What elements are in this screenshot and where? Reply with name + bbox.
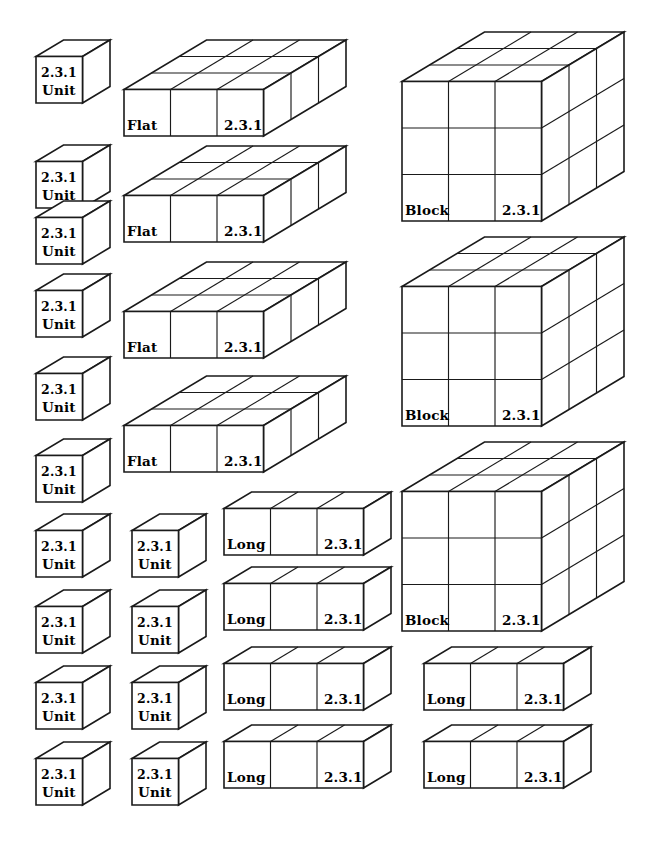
block-name-label: Long	[227, 771, 266, 785]
block-unit: Unit2.3.1	[34, 199, 112, 266]
block-code-label: 2.3.1	[41, 693, 77, 706]
block-code-label: 2.3.1	[41, 228, 77, 241]
block-name-label: Long	[227, 613, 266, 627]
block-flat: Flat2.3.1	[122, 38, 348, 138]
block-name-label: Block	[405, 409, 449, 423]
block-code-label: 2.3.1	[41, 172, 77, 185]
block-code-label: 2.3.1	[224, 225, 263, 239]
block-name-label: Block	[405, 614, 449, 628]
block-name-label: Unit	[42, 558, 76, 572]
block-unit: Unit2.3.1	[34, 512, 112, 579]
block-unit: Unit2.3.1	[34, 588, 112, 655]
block-code-label: 2.3.1	[224, 341, 263, 355]
block-name-label: Unit	[42, 245, 76, 259]
block-code-label: 2.3.1	[41, 466, 77, 479]
block-code-label: 2.3.1	[524, 771, 563, 785]
block-code-label: 2.3.1	[41, 67, 77, 80]
block-long: Long2.3.1	[222, 565, 393, 632]
block-block: Block2.3.1	[400, 235, 626, 428]
block-code-label: 2.3.1	[137, 693, 173, 706]
block-name-label: Unit	[42, 710, 76, 724]
block-name-label: Flat	[127, 341, 158, 355]
block-code-label: 2.3.1	[502, 409, 541, 423]
block-code-label: 2.3.1	[324, 693, 363, 707]
block-name-label: Unit	[138, 786, 172, 800]
block-long: Long2.3.1	[222, 723, 393, 790]
block-unit: Unit2.3.1	[130, 664, 208, 731]
block-unit: Unit2.3.1	[130, 512, 208, 579]
block-long: Long2.3.1	[222, 645, 393, 712]
block-name-label: Long	[227, 538, 266, 552]
block-name-label: Unit	[42, 483, 76, 497]
block-code-label: 2.3.1	[137, 541, 173, 554]
block-code-label: 2.3.1	[524, 693, 563, 707]
block-code-label: 2.3.1	[224, 119, 263, 133]
block-code-label: 2.3.1	[41, 617, 77, 630]
block-code-label: 2.3.1	[324, 538, 363, 552]
block-long: Long2.3.1	[422, 645, 593, 712]
block-code-label: 2.3.1	[137, 617, 173, 630]
diagram-canvas: Unit2.3.1Unit2.3.1Unit2.3.1Unit2.3.1Unit…	[0, 0, 663, 845]
block-block: Block2.3.1	[400, 30, 626, 223]
block-code-label: 2.3.1	[137, 769, 173, 782]
block-code-label: 2.3.1	[324, 771, 363, 785]
block-code-label: 2.3.1	[41, 301, 77, 314]
block-name-label: Long	[427, 771, 466, 785]
block-name-label: Unit	[42, 634, 76, 648]
block-code-label: 2.3.1	[41, 384, 77, 397]
block-name-label: Unit	[42, 401, 76, 415]
block-long: Long2.3.1	[222, 490, 393, 557]
block-unit: Unit2.3.1	[34, 38, 112, 105]
block-name-label: Unit	[42, 84, 76, 98]
block-code-label: 2.3.1	[324, 613, 363, 627]
block-flat: Flat2.3.1	[122, 260, 348, 360]
block-unit: Unit2.3.1	[130, 588, 208, 655]
block-unit: Unit2.3.1	[34, 437, 112, 504]
block-name-label: Block	[405, 204, 449, 218]
block-code-label: 2.3.1	[502, 204, 541, 218]
block-code-label: 2.3.1	[502, 614, 541, 628]
block-code-label: 2.3.1	[41, 769, 77, 782]
block-code-label: 2.3.1	[41, 541, 77, 554]
block-flat: Flat2.3.1	[122, 144, 348, 244]
block-name-label: Unit	[138, 710, 172, 724]
block-name-label: Flat	[127, 225, 158, 239]
block-name-label: Flat	[127, 119, 158, 133]
block-unit: Unit2.3.1	[34, 740, 112, 807]
block-name-label: Unit	[42, 318, 76, 332]
block-long: Long2.3.1	[422, 723, 593, 790]
block-unit: Unit2.3.1	[130, 740, 208, 807]
block-code-label: 2.3.1	[224, 455, 263, 469]
block-unit: Unit2.3.1	[34, 355, 112, 422]
block-name-label: Unit	[42, 786, 76, 800]
block-unit: Unit2.3.1	[34, 664, 112, 731]
block-block: Block2.3.1	[400, 440, 626, 633]
block-name-label: Unit	[138, 634, 172, 648]
block-flat: Flat2.3.1	[122, 374, 348, 474]
block-name-label: Unit	[138, 558, 172, 572]
block-name-label: Long	[427, 693, 466, 707]
block-name-label: Flat	[127, 455, 158, 469]
block-name-label: Long	[227, 693, 266, 707]
block-unit: Unit2.3.1	[34, 272, 112, 339]
